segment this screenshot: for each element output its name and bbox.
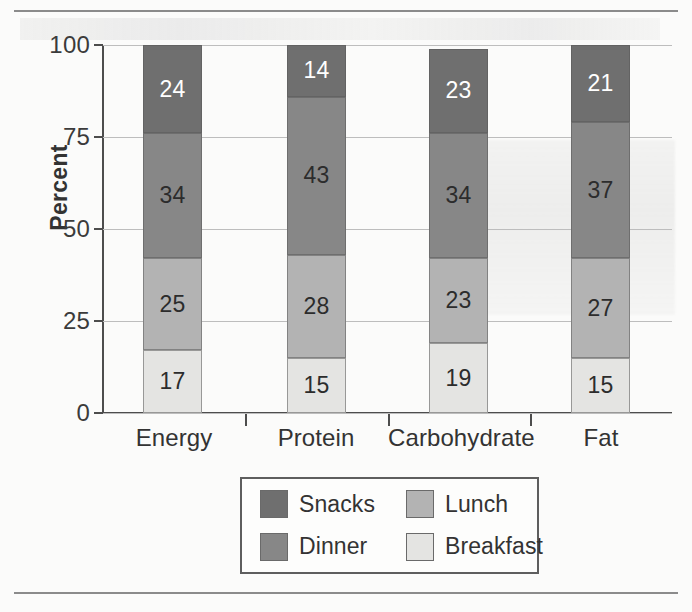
bar-segment: 34 xyxy=(429,133,488,258)
bar-stack: 15284314 xyxy=(287,45,346,413)
y-axis-tick-mark xyxy=(94,320,103,322)
x-axis-category-label: Energy xyxy=(103,424,245,452)
bar-segment: 27 xyxy=(571,258,630,357)
bar-segment-value-label: 14 xyxy=(304,59,330,82)
bar-segment: 37 xyxy=(571,122,630,258)
y-axis-tick-label: 50 xyxy=(8,217,90,241)
bar-segment-value-label: 43 xyxy=(304,164,330,187)
bar-segment-value-label: 25 xyxy=(160,293,186,316)
legend-label: Breakfast xyxy=(445,533,543,560)
page-bleed-through-top xyxy=(20,18,660,40)
legend-label: Snacks xyxy=(299,491,375,518)
bar-segment-value-label: 23 xyxy=(446,79,472,102)
bar-segment-value-label: 24 xyxy=(160,78,186,101)
legend-swatch-icon xyxy=(260,490,288,518)
bar-segment: 14 xyxy=(287,45,346,97)
bar-segment-value-label: 23 xyxy=(446,289,472,312)
bar-segment: 34 xyxy=(143,133,202,258)
x-axis-category-label: Protein xyxy=(245,424,387,452)
y-axis-tick-mark xyxy=(94,228,103,230)
bar-stack: 17253424 xyxy=(143,45,202,413)
bar-segment-value-label: 37 xyxy=(588,179,614,202)
bar-stack: 19233423 xyxy=(429,45,488,413)
legend-item[interactable]: Breakfast xyxy=(406,533,559,561)
y-axis-tick-mark xyxy=(94,412,103,414)
bar-stack: 15273721 xyxy=(571,45,630,413)
bar-segment: 15 xyxy=(571,358,630,413)
y-axis-tick-label: 0 xyxy=(8,401,90,425)
y-axis-tick-label: 100 xyxy=(8,33,90,57)
plot-area: 17253424152843141923342315273721 xyxy=(103,45,672,413)
bar-segment-value-label: 34 xyxy=(446,184,472,207)
legend-item[interactable]: Dinner xyxy=(260,533,406,561)
bar-segment: 23 xyxy=(429,49,488,134)
legend-label: Dinner xyxy=(299,533,367,560)
bar-segment-value-label: 15 xyxy=(304,374,330,397)
y-axis-tick-mark xyxy=(94,44,103,46)
chart-figure: Percent 17253424152843141923342315273721… xyxy=(0,0,692,612)
bar-segment: 25 xyxy=(143,258,202,350)
bar-segment: 17 xyxy=(143,350,202,413)
chart-legend: SnacksLunchDinnerBreakfast xyxy=(240,477,539,574)
bar-segment: 43 xyxy=(287,97,346,255)
legend-label: Lunch xyxy=(445,491,508,518)
bar-segment: 15 xyxy=(287,358,346,413)
bar-segment-value-label: 21 xyxy=(588,72,614,95)
bar-segment-value-label: 27 xyxy=(588,297,614,320)
bar-segment: 21 xyxy=(571,45,630,122)
bar-segment: 28 xyxy=(287,255,346,358)
bar-segment: 19 xyxy=(429,343,488,413)
bar-segment-value-label: 19 xyxy=(446,367,472,390)
legend-item[interactable]: Lunch xyxy=(406,490,559,518)
bar-segment: 23 xyxy=(429,258,488,343)
y-axis-tick-mark xyxy=(94,136,103,138)
bar-segment-value-label: 15 xyxy=(588,374,614,397)
legend-swatch-icon xyxy=(260,533,288,561)
x-axis-category-label: Fat xyxy=(530,424,672,452)
page-rule-top xyxy=(14,10,678,12)
legend-swatch-icon xyxy=(406,533,434,561)
bar-segment-value-label: 28 xyxy=(304,295,330,318)
bar-segment-value-label: 17 xyxy=(160,370,186,393)
bar-segment: 24 xyxy=(143,45,202,133)
y-axis-tick-label: 75 xyxy=(8,125,90,149)
x-axis-category-label: Carbohydrate xyxy=(388,424,530,452)
y-axis-tick-label: 25 xyxy=(8,309,90,333)
legend-swatch-icon xyxy=(406,490,434,518)
bar-segment-value-label: 34 xyxy=(160,184,186,207)
page-rule-bottom xyxy=(14,592,678,594)
legend-item[interactable]: Snacks xyxy=(260,490,406,518)
